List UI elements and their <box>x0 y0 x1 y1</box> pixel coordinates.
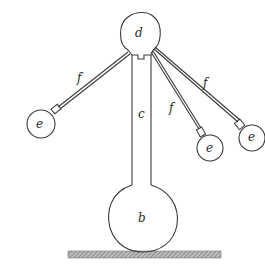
label-ball-left: e <box>36 117 43 131</box>
label-arm-left: f <box>76 71 84 85</box>
label-ball-far-right: e <box>248 130 255 144</box>
arm-right <box>154 47 245 130</box>
arm-left <box>51 52 130 114</box>
label-top-sphere: d <box>135 26 143 40</box>
apparatus-diagram: d c b e e e f f f <box>0 0 265 269</box>
label-arm-right: f <box>202 76 210 90</box>
label-stem: c <box>138 107 145 121</box>
label-bottom-bulb: b <box>138 211 146 225</box>
arm-middle <box>151 51 206 137</box>
label-ball-middle-right: e <box>206 141 213 155</box>
label-arm-middle: f <box>168 101 176 115</box>
